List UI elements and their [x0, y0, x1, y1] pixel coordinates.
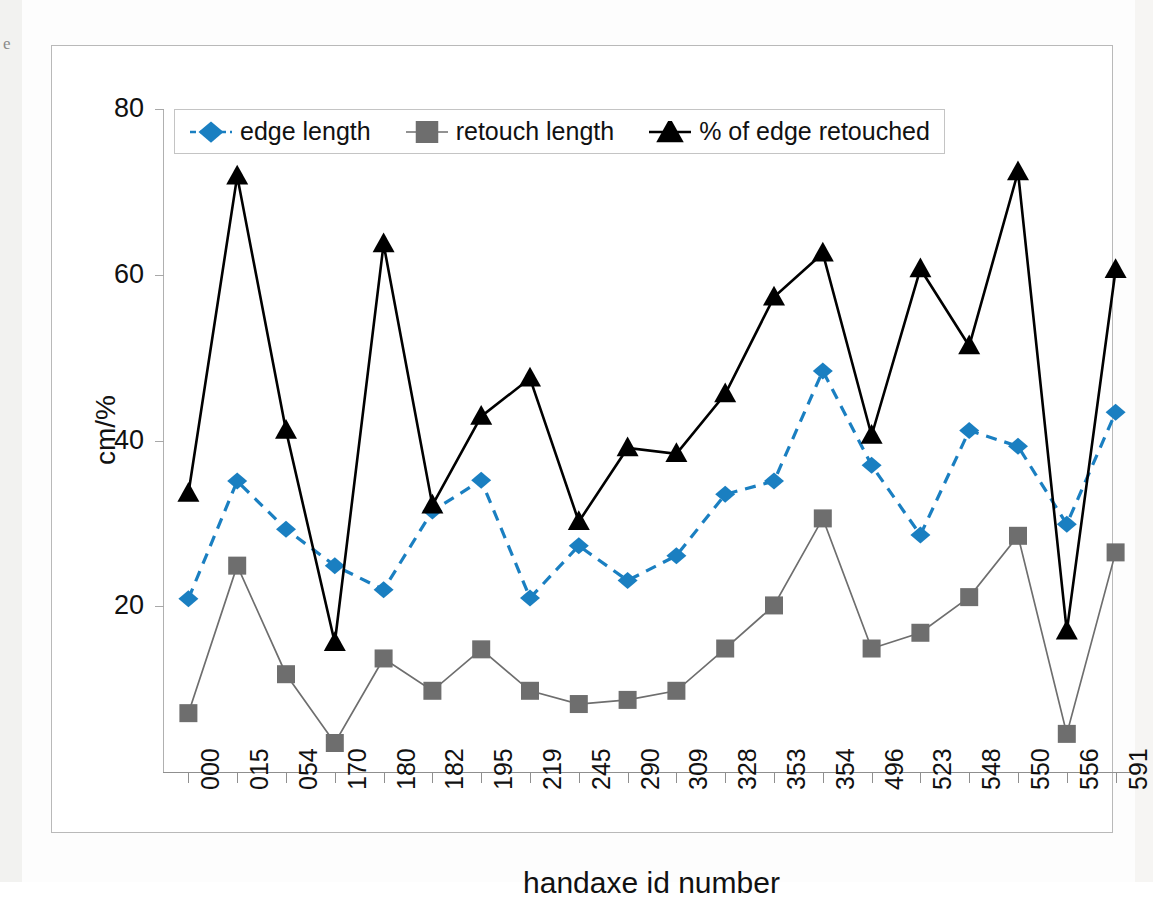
data-point [228, 557, 246, 575]
data-point [765, 596, 783, 614]
data-point [716, 640, 734, 658]
data-point [667, 682, 685, 700]
y-axis-tick-label: 20 [88, 592, 144, 619]
y-axis-tick [155, 109, 164, 110]
data-point [421, 494, 443, 514]
data-point [666, 547, 686, 564]
x-axis-tick [530, 773, 531, 783]
data-point [324, 631, 346, 651]
x-axis-tick-label: 591 [1125, 764, 1153, 790]
data-point [570, 695, 588, 713]
x-axis-tick [1116, 773, 1117, 783]
data-point [911, 624, 929, 642]
chart-frame: 80604020 cm/% 00001505417018018219521924… [51, 45, 1113, 833]
data-point [1105, 258, 1127, 278]
data-point [813, 362, 833, 379]
x-axis-tick [872, 773, 873, 783]
data-point [374, 581, 394, 598]
data-point [1057, 516, 1077, 533]
x-axis-tick [335, 773, 336, 783]
data-point [178, 590, 198, 607]
x-axis-title: handaxe id number [163, 866, 1140, 897]
x-axis-tick [823, 773, 824, 783]
data-point [1007, 160, 1029, 180]
data-point [1056, 620, 1078, 640]
data-point [521, 682, 539, 700]
x-axis-tick [969, 773, 970, 783]
margin-stray-mark: e [3, 36, 14, 52]
y-axis-tick [155, 275, 164, 276]
series-edge-length [178, 362, 1125, 607]
x-axis-tick [188, 773, 189, 783]
data-point [470, 405, 492, 425]
data-point [519, 367, 541, 387]
series-canvas [164, 109, 1140, 772]
y-axis-title: cm/% [90, 360, 122, 500]
data-point [715, 486, 735, 503]
data-point [909, 257, 931, 277]
x-axis-tick [628, 773, 629, 783]
data-point [1008, 438, 1028, 455]
scan-left-margin [0, 0, 22, 882]
data-point [958, 335, 980, 355]
data-point [861, 424, 883, 444]
y-axis-tick-label: 80 [88, 95, 144, 122]
chart-legend: edge lengthretouch length% of edge retou… [174, 109, 945, 154]
data-point [960, 588, 978, 606]
data-point [375, 649, 393, 667]
legend-label: % of edge retouched [699, 119, 930, 144]
x-axis-tick [481, 773, 482, 783]
data-point [814, 509, 832, 527]
series-retouch-length [179, 509, 1124, 752]
data-point [177, 482, 199, 502]
x-axis-tick [286, 773, 287, 783]
square-marker-icon [405, 121, 449, 143]
data-point [226, 165, 248, 185]
data-point [619, 691, 637, 709]
data-point [277, 665, 295, 683]
data-point [423, 682, 441, 700]
plot-area [164, 109, 1140, 772]
data-point [863, 640, 881, 658]
data-point [275, 419, 297, 439]
diamond-marker-icon [189, 121, 233, 143]
data-point [373, 233, 395, 253]
x-axis-tick [1067, 773, 1068, 783]
x-axis-tick [774, 773, 775, 783]
x-axis-tick [579, 773, 580, 783]
x-axis-tick [676, 773, 677, 783]
data-point [472, 640, 490, 658]
data-point [910, 526, 930, 543]
x-axis-tick [384, 773, 385, 783]
legend-item-edge-length[interactable]: edge length [189, 119, 371, 144]
legend-item-of-edge-retouched[interactable]: % of edge retouched [648, 119, 930, 144]
x-axis-tick [920, 773, 921, 783]
data-point [862, 457, 882, 474]
x-axis-tick [725, 773, 726, 783]
y-axis-tick-label: 60 [88, 261, 144, 288]
x-axis-tick [1018, 773, 1019, 783]
series-line [188, 518, 1115, 743]
y-axis-tick [155, 606, 164, 607]
data-point [1107, 543, 1125, 561]
data-point [617, 436, 639, 456]
data-point [1009, 527, 1027, 545]
x-axis-tick [237, 773, 238, 783]
legend-label: retouch length [456, 119, 614, 144]
data-point [326, 734, 344, 752]
data-point [276, 521, 296, 538]
legend-item-retouch-length[interactable]: retouch length [405, 119, 614, 144]
data-point [179, 704, 197, 722]
y-axis-tick [155, 441, 164, 442]
data-point [1106, 404, 1126, 421]
data-point [959, 422, 979, 439]
triangle-marker-icon [648, 121, 692, 143]
data-point [714, 383, 736, 403]
data-point [764, 473, 784, 490]
data-point [471, 472, 491, 489]
legend-label: edge length [240, 119, 371, 144]
series-line [188, 172, 1115, 643]
data-point [568, 510, 590, 530]
x-axis-tick [432, 773, 433, 783]
